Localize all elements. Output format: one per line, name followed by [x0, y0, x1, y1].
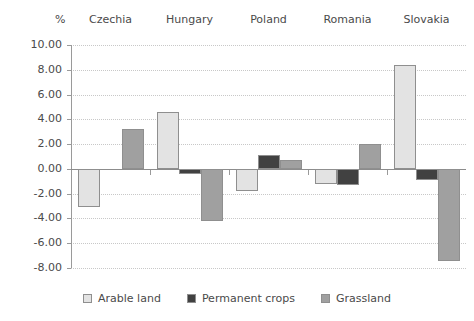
- ytick-label: 0.00: [0, 163, 62, 175]
- legend-label: Grassland: [336, 292, 391, 305]
- bar-hungary-permanent-crops: [179, 169, 201, 174]
- legend-label: Arable land: [98, 292, 161, 305]
- ytick-label: 4.00: [0, 113, 62, 125]
- gridline-y: [71, 218, 466, 219]
- legend-swatch-grassland: [321, 294, 330, 303]
- bar-hungary-grassland: [201, 169, 223, 221]
- group-separator-tick: [150, 170, 151, 175]
- bar-poland-arable-land: [236, 169, 258, 191]
- ytick-label: 6.00: [0, 89, 62, 101]
- zero-axis-line: [71, 169, 466, 170]
- bar-poland-permanent-crops: [258, 155, 280, 169]
- ytick-label: -2.00: [0, 188, 62, 200]
- bar-czechia-grassland: [122, 129, 144, 169]
- bar-poland-grassland: [280, 160, 302, 169]
- legend-swatch-arable-land: [83, 294, 92, 303]
- gridline-y: [71, 243, 466, 244]
- group-separator-tick: [308, 170, 309, 175]
- gridline-y: [71, 268, 466, 269]
- gridline-y: [71, 194, 466, 195]
- group-separator-tick: [229, 170, 230, 175]
- gridline-y: [71, 45, 466, 46]
- bar-romania-grassland: [359, 144, 381, 169]
- legend-item-permanent-crops: Permanent crops: [187, 292, 295, 305]
- bar-romania-arable-land: [315, 169, 337, 184]
- grouped-bar-chart: 10.008.006.004.002.000.00-2.00-4.00-6.00…: [0, 0, 474, 321]
- bar-slovakia-permanent-crops: [416, 169, 438, 180]
- ytick-label: -8.00: [0, 262, 62, 274]
- bar-czechia-arable-land: [78, 169, 100, 207]
- ytick-label: -6.00: [0, 237, 62, 249]
- legend-swatch-permanent-crops: [187, 294, 196, 303]
- ytick-label: 10.00: [0, 39, 62, 51]
- ytick-label: -4.00: [0, 212, 62, 224]
- chart-legend: Arable landPermanent cropsGrassland: [0, 292, 474, 305]
- ytick-label: 2.00: [0, 138, 62, 150]
- ytick-label: 8.00: [0, 64, 62, 76]
- bar-slovakia-arable-land: [394, 65, 416, 169]
- legend-label: Permanent crops: [202, 292, 295, 305]
- bar-slovakia-grassland: [438, 169, 460, 261]
- legend-item-grassland: Grassland: [321, 292, 391, 305]
- legend-item-arable-land: Arable land: [83, 292, 161, 305]
- bar-romania-permanent-crops: [337, 169, 359, 185]
- y-axis-line: [71, 45, 72, 268]
- ytick-mark: [67, 268, 71, 269]
- bar-hungary-arable-land: [157, 112, 179, 169]
- group-separator-tick: [387, 170, 388, 175]
- category-label-slovakia: Slovakia: [367, 14, 474, 26]
